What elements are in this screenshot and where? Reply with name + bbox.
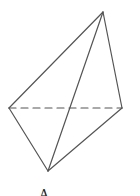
edge-top-right <box>103 12 122 108</box>
tetrahedron-diagram <box>0 0 140 196</box>
edge-left-bottom <box>9 108 48 171</box>
edge-top-left <box>9 12 103 108</box>
figure-caption: A <box>39 188 49 196</box>
